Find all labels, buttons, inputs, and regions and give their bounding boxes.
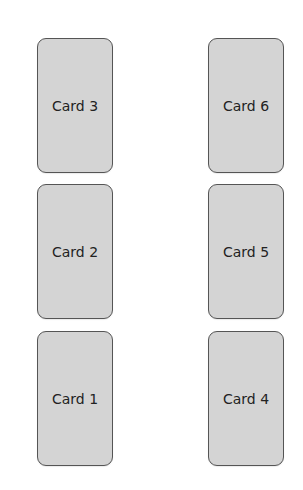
card-label: Card 2 xyxy=(52,244,98,260)
card-4[interactable]: Card 4 xyxy=(208,331,284,466)
cropped-header-text xyxy=(0,0,303,7)
card-label: Card 4 xyxy=(223,391,269,407)
card-3[interactable]: Card 3 xyxy=(37,38,113,173)
card-label: Card 1 xyxy=(52,391,98,407)
card-label: Card 3 xyxy=(52,98,98,114)
card-label: Card 5 xyxy=(223,244,269,260)
card-5[interactable]: Card 5 xyxy=(208,184,284,319)
card-1[interactable]: Card 1 xyxy=(37,331,113,466)
card-2[interactable]: Card 2 xyxy=(37,184,113,319)
card-label: Card 6 xyxy=(223,98,269,114)
card-6[interactable]: Card 6 xyxy=(208,38,284,173)
